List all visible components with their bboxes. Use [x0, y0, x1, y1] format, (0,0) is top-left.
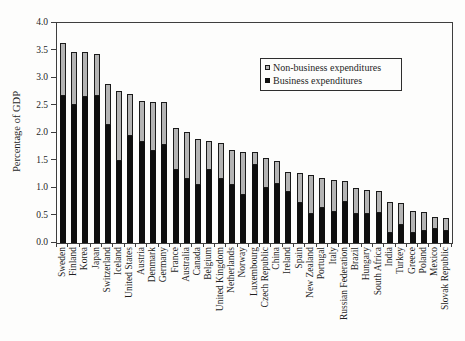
bar-japan-nonbusiness-segment	[94, 54, 100, 96]
bar-luxembourg-business-segment	[252, 165, 258, 243]
rd-expenditure-chart: Percentage of GDP Non-business expenditu…	[0, 0, 465, 341]
bar-south-africa-business-segment	[376, 213, 382, 243]
x-label-united-kingdom: United Kingdom	[215, 247, 225, 337]
bar-korea-nonbusiness-segment	[82, 52, 88, 97]
x-label-czech-republic: Czech Republic	[260, 247, 270, 337]
bar-australia-nonbusiness-segment	[184, 132, 190, 179]
bar-iceland-business-segment	[116, 161, 122, 244]
bar-sweden	[60, 43, 66, 243]
x-label-turkey: Turkey	[395, 247, 405, 337]
y-tick-label: 2.0	[20, 126, 48, 138]
y-tick-label: 1.5	[20, 154, 48, 166]
y-tick-label: 0.0	[20, 236, 48, 248]
x-label-greece: Greece	[407, 247, 417, 337]
bar-poland-business-segment	[421, 231, 427, 243]
y-tick	[51, 159, 56, 160]
bar-italy-business-segment	[331, 212, 337, 243]
bar-netherlands-nonbusiness-segment	[229, 150, 235, 186]
bar-switzerland	[105, 84, 111, 244]
bar-mexico-nonbusiness-segment	[432, 217, 438, 230]
bar-japan-business-segment	[94, 96, 100, 243]
bar-turkey-business-segment	[398, 225, 404, 243]
legend-swatch-business	[265, 78, 270, 83]
x-label-china: China	[271, 247, 281, 337]
bar-brazil-nonbusiness-segment	[353, 188, 359, 214]
bar-south-africa-nonbusiness-segment	[376, 191, 382, 213]
bar-iceland	[116, 91, 122, 243]
bar-denmark	[150, 102, 156, 243]
y-tick-label: 0.5	[20, 209, 48, 221]
bar-south-africa	[376, 191, 382, 243]
x-label-poland: Poland	[418, 247, 428, 337]
bar-france-nonbusiness-segment	[173, 128, 179, 171]
x-label-canada: Canada	[192, 247, 202, 337]
legend-label-business: Business expenditures	[273, 74, 362, 87]
bar-korea	[82, 52, 88, 243]
x-label-norway: Norway	[237, 247, 247, 337]
bar-turkey-nonbusiness-segment	[398, 203, 404, 224]
x-tick	[451, 243, 452, 247]
y-tick-label: 3.0	[20, 71, 48, 83]
bar-denmark-nonbusiness-segment	[150, 102, 156, 152]
bar-finland-business-segment	[71, 105, 77, 243]
bar-china-business-segment	[274, 184, 280, 243]
y-tick	[51, 132, 56, 133]
x-label-switzerland: Switzerland	[102, 247, 112, 337]
x-label-ireland: Ireland	[282, 247, 292, 337]
bar-poland-nonbusiness-segment	[421, 212, 427, 232]
bar-finland	[71, 52, 77, 243]
bar-ireland-business-segment	[285, 192, 291, 243]
y-tick	[51, 77, 56, 78]
bar-new-zealand-nonbusiness-segment	[308, 175, 314, 214]
bar-france-business-segment	[173, 170, 179, 243]
bar-hungary-business-segment	[364, 214, 370, 243]
bar-sweden-nonbusiness-segment	[60, 43, 66, 95]
bar-slovak-republic-business-segment	[443, 231, 449, 243]
bar-hungary-nonbusiness-segment	[364, 190, 370, 215]
bar-united-states-business-segment	[127, 136, 133, 243]
bar-portugal-business-segment	[319, 208, 325, 243]
y-tick	[51, 22, 56, 23]
bar-iceland-nonbusiness-segment	[116, 91, 122, 161]
bar-germany	[161, 102, 167, 243]
x-label-iceland: Iceland	[113, 247, 123, 337]
bar-united-states-nonbusiness-segment	[127, 94, 133, 136]
x-label-sweden: Sweden	[57, 247, 67, 337]
bar-norway-business-segment	[240, 195, 246, 243]
x-label-finland: Finland	[68, 247, 78, 337]
bar-norway-nonbusiness-segment	[240, 152, 246, 195]
bar-germany-business-segment	[161, 145, 167, 243]
bar-japan	[94, 54, 100, 243]
bar-czech-republic-business-segment	[263, 188, 269, 243]
bar-brazil	[353, 188, 359, 243]
bar-slovak-republic	[443, 218, 449, 243]
x-label-south-africa: South Africa	[373, 247, 383, 337]
bar-canada-nonbusiness-segment	[195, 139, 201, 185]
bar-ireland-nonbusiness-segment	[285, 172, 291, 193]
legend-swatch-non-business	[265, 65, 270, 70]
bar-russian-federation	[342, 181, 348, 243]
x-label-korea: Korea	[79, 247, 89, 337]
bar-denmark-business-segment	[150, 151, 156, 243]
bar-china-nonbusiness-segment	[274, 161, 280, 184]
bar-portugal-nonbusiness-segment	[319, 178, 325, 208]
bar-brazil-business-segment	[353, 214, 359, 243]
bar-finland-nonbusiness-segment	[71, 52, 77, 105]
bar-italy	[331, 180, 337, 243]
x-label-united-states: United States	[124, 247, 134, 337]
x-label-austria: Austria	[136, 247, 146, 337]
bar-russian-federation-nonbusiness-segment	[342, 181, 348, 202]
bar-australia	[184, 132, 190, 243]
y-tick-label: 4.0	[20, 16, 48, 28]
bar-poland	[421, 212, 427, 243]
legend: Non-business expenditures Business expen…	[260, 58, 402, 91]
x-label-belgium: Belgium	[203, 247, 213, 337]
bar-greece-nonbusiness-segment	[410, 211, 416, 232]
bar-belgium-nonbusiness-segment	[206, 141, 212, 171]
bar-austria-nonbusiness-segment	[139, 101, 145, 143]
legend-item-non-business: Non-business expenditures	[265, 61, 397, 74]
bar-united-states	[127, 94, 133, 243]
bar-china	[274, 161, 280, 243]
bar-australia-business-segment	[184, 179, 190, 243]
x-label-brazil: Brazil	[350, 247, 360, 337]
